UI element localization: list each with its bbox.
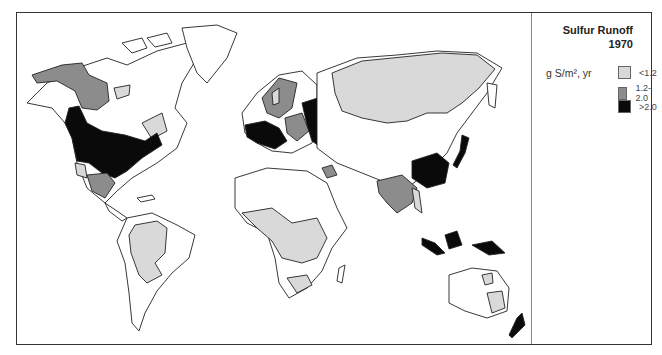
world-map bbox=[17, 13, 532, 343]
region-high-indonesia bbox=[422, 238, 445, 255]
legend-title: Sulfur Runoff 1970 bbox=[563, 23, 633, 51]
legend: Sulfur Runoff 1970 g S/m², yr <1.2 1.2-2… bbox=[532, 13, 651, 344]
region-high-new-zealand bbox=[509, 313, 525, 338]
legend-unit: g S/m², yr bbox=[546, 67, 592, 79]
swatch-medium bbox=[618, 87, 627, 100]
greenland bbox=[182, 25, 237, 83]
swatch-low bbox=[618, 66, 631, 79]
legend-item-low: <1.2 bbox=[618, 66, 657, 79]
map-frame: Sulfur Runoff 1970 g S/m², yr <1.2 1.2-2… bbox=[16, 12, 652, 345]
region-high-japan bbox=[453, 135, 469, 168]
legend-item-high: >2.0 bbox=[618, 100, 657, 113]
swatch-high bbox=[618, 100, 631, 113]
